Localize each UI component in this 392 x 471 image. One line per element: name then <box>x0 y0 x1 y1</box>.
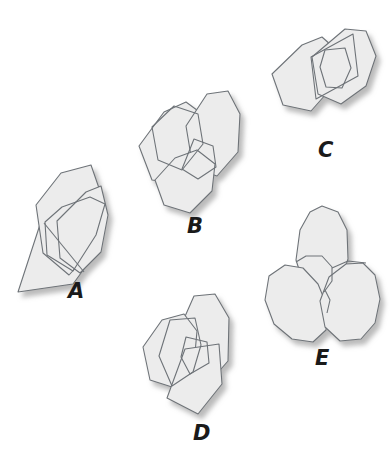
figure-c-group <box>272 29 376 111</box>
figure-a-filled-shapes <box>18 165 108 292</box>
figure-e-filled-shapes <box>265 206 380 342</box>
figure-b-filled-shapes <box>139 91 240 213</box>
figure-label-e: E <box>315 348 330 369</box>
figure-c-filled-shapes <box>272 29 376 111</box>
figure-label-c: C <box>318 140 334 161</box>
figure-label-d: D <box>193 423 211 444</box>
figure-a-group <box>18 165 108 292</box>
figure-d-group <box>143 294 229 414</box>
figure-page: A B C D E <box>0 0 392 471</box>
figure-label-a: A <box>68 281 85 302</box>
figure-d-filled-shapes <box>143 294 229 414</box>
figure-b-group <box>139 91 240 213</box>
figure-e-group <box>265 206 380 342</box>
figure-label-b: B <box>187 216 204 237</box>
